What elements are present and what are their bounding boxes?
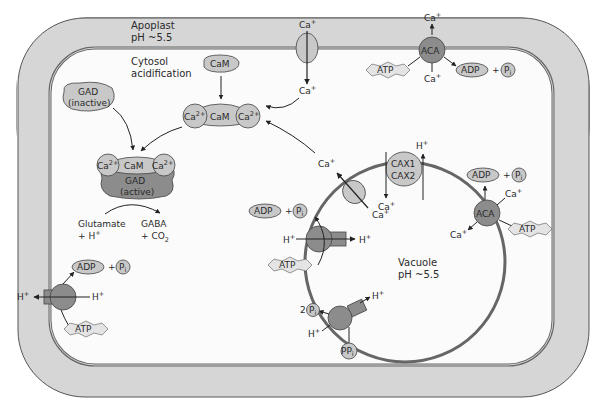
svg-text:CAX2: CAX2: [391, 171, 415, 181]
svg-text:(inactive): (inactive): [68, 98, 111, 108]
cytosol-label: Cytosol: [131, 56, 168, 67]
calcium-calmodulin-complex: Ca2+ CaM Ca2+: [183, 104, 260, 128]
svg-text:GAD: GAD: [125, 176, 145, 186]
svg-text:ACA: ACA: [476, 209, 495, 219]
atp-aca-top: ATP: [366, 62, 410, 78]
vacuole: Vacuole pH ~5.5: [305, 162, 505, 362]
svg-text:2: 2: [300, 305, 306, 315]
atp-plasma: ATP: [64, 321, 108, 337]
apoplast-ph-label: pH ~5.5: [131, 32, 172, 43]
gad-inactive: GAD (inactive): [63, 82, 114, 111]
calcium-signaling-diagram: Apoplast pH ~5.5 Cytosol acidification C…: [0, 0, 603, 408]
svg-text:ATP: ATP: [519, 224, 536, 234]
vacuole-ph-label: pH ~5.5: [398, 269, 439, 280]
ppi: PPi: [341, 343, 357, 359]
svg-text:ADP: ADP: [461, 65, 480, 75]
svg-text:ADP: ADP: [472, 170, 491, 180]
svg-text:CaM: CaM: [124, 161, 144, 171]
svg-text:CaM: CaM: [210, 59, 230, 69]
svg-text:ACA: ACA: [421, 46, 440, 56]
svg-text:(active): (active): [120, 187, 154, 197]
svg-text:ATP: ATP: [279, 260, 296, 270]
cytosol-acidification-label: acidification: [131, 68, 192, 79]
gaba-label: GABA: [141, 219, 167, 229]
svg-text:+: +: [492, 65, 500, 75]
calmodulin-free: CaM: [204, 55, 239, 72]
glutamate-label: Glutamate: [78, 219, 126, 229]
svg-text:ATP: ATP: [75, 324, 92, 334]
svg-text:+: +: [285, 206, 293, 216]
apoplast-label: Apoplast: [131, 20, 175, 31]
atp-aca-vacuole: ATP: [508, 221, 552, 237]
svg-text:ADP: ADP: [254, 206, 273, 216]
svg-text:GAD: GAD: [78, 87, 98, 97]
svg-text:+: +: [108, 262, 116, 272]
gad-active-complex: Ca2+ CaM Ca2+ GAD (active): [97, 154, 175, 199]
vacuole-label: Vacuole: [398, 257, 437, 268]
svg-text:CaM: CaM: [210, 112, 230, 122]
atp-vacuole-atpase: ATP: [268, 257, 312, 273]
two-pi: 2 Pi: [300, 304, 320, 318]
svg-text:ADP: ADP: [77, 262, 96, 272]
svg-text:ATP: ATP: [377, 65, 394, 75]
svg-text:CAX1: CAX1: [391, 159, 415, 169]
svg-text:+: +: [503, 170, 511, 180]
